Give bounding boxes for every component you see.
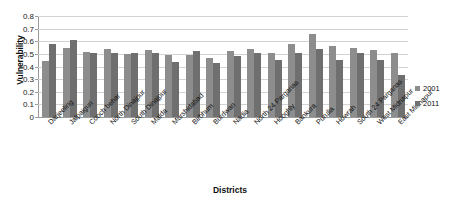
- bar-2011: [49, 44, 56, 117]
- bar-2001: [42, 61, 49, 117]
- bar-group: [347, 16, 368, 117]
- y-axis-tick-mark: [35, 41, 38, 42]
- bar-group: [326, 16, 347, 117]
- legend-swatch-icon: [415, 101, 420, 106]
- y-axis-tick-label: 0.5: [23, 49, 34, 58]
- bar-2011: [357, 53, 364, 117]
- bar-group: [306, 16, 327, 117]
- bar-group: [285, 16, 306, 117]
- bar-group: [224, 16, 245, 117]
- y-axis-tick-label: 0.1: [23, 100, 34, 109]
- x-axis-title: Districts: [0, 185, 460, 195]
- bar-group: [244, 16, 265, 117]
- bar-2001: [247, 49, 254, 117]
- y-axis-tick-label: 0.8: [23, 12, 34, 21]
- y-axis-tick-label: 0: [30, 113, 34, 122]
- vulnerability-bar-chart: Vulnerability 0.80.70.60.50.40.30.20.10 …: [0, 0, 460, 204]
- bar-2011: [213, 63, 220, 117]
- plot-area: 0.80.70.60.50.40.30.20.10: [38, 16, 408, 117]
- x-axis-tick-labels: DarjeelingJalpaiguriCooch beharNorth Din…: [38, 118, 408, 180]
- chart-legend: 20012011: [415, 84, 459, 114]
- y-axis-tick-mark: [35, 92, 38, 93]
- bar-group: [39, 16, 60, 117]
- legend-label: 2001: [423, 84, 440, 93]
- bar-series-container: [39, 16, 408, 117]
- y-axis-tick-label: 0.3: [23, 75, 34, 84]
- y-axis-tick-mark: [35, 104, 38, 105]
- bar-2001: [165, 55, 172, 117]
- y-axis-tick-label: 0.7: [23, 24, 34, 33]
- y-axis-tick-mark: [35, 29, 38, 30]
- bar-group: [162, 16, 183, 117]
- y-axis-tick-label: 0.4: [23, 62, 34, 71]
- y-axis-tick-mark: [35, 54, 38, 55]
- y-axis-tick-mark: [35, 79, 38, 80]
- y-axis-tick-mark: [35, 16, 38, 17]
- bar-group: [203, 16, 224, 117]
- bar-2011: [254, 53, 261, 117]
- legend-item[interactable]: 2011: [415, 99, 459, 108]
- bar-2011: [336, 60, 343, 117]
- y-axis-tick-mark: [35, 67, 38, 68]
- y-axis-tick-label: 0.6: [23, 37, 34, 46]
- y-axis-tick-label: 0.2: [23, 87, 34, 96]
- bar-2011: [172, 62, 179, 117]
- legend-swatch-icon: [415, 86, 420, 91]
- legend-label: 2011: [423, 99, 439, 108]
- legend-item[interactable]: 2001: [415, 84, 459, 93]
